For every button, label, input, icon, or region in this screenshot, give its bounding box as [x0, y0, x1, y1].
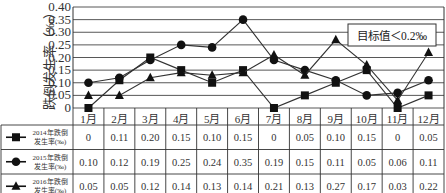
square-marker-icon — [270, 104, 278, 112]
table-cell: 0.05 — [358, 157, 376, 168]
triangle-marker-icon — [424, 47, 433, 56]
fall-rate-chart: 00.050.100.150.200.250.300.350.40 跌倒发生率（… — [0, 0, 446, 193]
table-cell: 0.22 — [419, 181, 437, 192]
table-cell: 0.27 — [327, 181, 345, 192]
table-cell: 0.19 — [265, 157, 283, 168]
table-cell: 0.14 — [172, 181, 191, 192]
table-cell: 0.21 — [265, 181, 283, 192]
month-label: 7月 — [266, 113, 283, 125]
table-cell: 0.12 — [110, 157, 128, 168]
triangle-marker-icon — [115, 90, 124, 99]
legend-label: 2016年跌倒 — [33, 177, 68, 186]
table-cell: 0.13 — [296, 181, 314, 192]
table-cell: 0.05 — [419, 132, 437, 143]
table-cell: 0.15 — [358, 132, 376, 143]
legend-label: 发生率(‰) — [34, 137, 67, 146]
y-axis-label: 跌倒发生率（‰） — [42, 6, 57, 110]
table-cell: 0.15 — [172, 132, 190, 143]
gridlines — [73, 7, 444, 108]
circle-marker-icon — [208, 43, 217, 52]
table-cell: 0.24 — [203, 157, 222, 168]
month-label: 6月 — [235, 113, 252, 125]
table-cell: 0.11 — [420, 157, 438, 168]
table-cell: 0.11 — [327, 157, 345, 168]
table-cell: 0.19 — [141, 157, 159, 168]
table-cell: 0.15 — [234, 132, 252, 143]
table-cell: 0.20 — [141, 132, 159, 143]
square-marker-icon — [84, 104, 92, 112]
legend-label: 2014年跌倒 — [33, 128, 68, 137]
legend-label: 发生率(‰) — [34, 162, 67, 171]
month-label: 3月 — [142, 113, 159, 125]
circle-marker-icon — [146, 56, 155, 65]
legend-label: 发生率(‰) — [34, 186, 67, 193]
month-label: 9月 — [328, 113, 345, 125]
table-cell: 0 — [395, 132, 400, 143]
svg-text:目标值＜0.2‰: 目标值＜0.2‰ — [357, 30, 427, 42]
table-cell: 0.03 — [388, 181, 406, 192]
table-cell: 0.25 — [172, 157, 190, 168]
table-cell: 0.05 — [110, 181, 128, 192]
table-cell: 0.05 — [79, 181, 97, 192]
triangle-marker-icon — [84, 90, 93, 99]
circle-marker-icon — [424, 76, 433, 85]
table-cell: 0 — [271, 132, 276, 143]
table-cell: 0.10 — [203, 132, 221, 143]
square-marker-icon — [12, 133, 20, 141]
table-cell: 0.10 — [327, 132, 345, 143]
month-label: 10月 — [356, 113, 378, 125]
month-label: 11月 — [387, 113, 409, 125]
square-marker-icon — [425, 91, 433, 99]
circle-marker-icon — [12, 157, 21, 166]
table-cell: 0.14 — [234, 181, 253, 192]
legend-label: 2015年跌倒 — [33, 153, 68, 162]
month-label: 12月 — [418, 113, 440, 125]
triangle-marker-icon — [362, 60, 371, 68]
triangle-marker-icon — [269, 50, 278, 59]
data-table: 1月2月3月4月5月6月7月8月9月10月11月12月2014年跌倒发生率(‰)… — [1, 108, 444, 193]
table-cell: 0.12 — [141, 181, 159, 192]
table-cell: 0.15 — [296, 157, 314, 168]
table-cell: 0.17 — [358, 181, 376, 192]
circle-marker-icon — [239, 15, 248, 24]
table-row: 2015年跌倒发生率(‰)0.100.120.190.250.240.350.1… — [6, 153, 438, 171]
month-label: 2月 — [111, 113, 128, 125]
table-row: 2016年跌倒发生率(‰)0.050.050.120.140.130.140.2… — [6, 177, 438, 193]
square-marker-icon — [208, 79, 216, 87]
table-cell: 0.06 — [388, 157, 406, 168]
month-label: 4月 — [173, 113, 190, 125]
table-cell: 0.10 — [79, 157, 97, 168]
circle-marker-icon — [177, 41, 186, 50]
month-label: 8月 — [297, 113, 314, 125]
table-cell: 0 — [86, 132, 91, 143]
target-annotation: 目标值＜0.2‰ — [348, 24, 436, 46]
table-cell: 0.05 — [296, 132, 314, 143]
table-cell: 0.13 — [203, 181, 221, 192]
square-marker-icon — [301, 91, 309, 99]
circle-marker-icon — [331, 76, 340, 85]
table-cell: 0.35 — [234, 157, 252, 168]
circle-marker-icon — [115, 73, 124, 82]
circle-marker-icon — [362, 91, 371, 100]
square-marker-icon — [394, 104, 402, 112]
circle-marker-icon — [84, 78, 93, 87]
table-cell: 0.11 — [110, 132, 128, 143]
table-row: 2014年跌倒发生率(‰)00.110.200.150.100.1500.050… — [6, 128, 438, 146]
month-label: 5月 — [204, 113, 221, 125]
triangle-marker-icon — [331, 35, 340, 44]
month-label: 1月 — [80, 113, 97, 125]
